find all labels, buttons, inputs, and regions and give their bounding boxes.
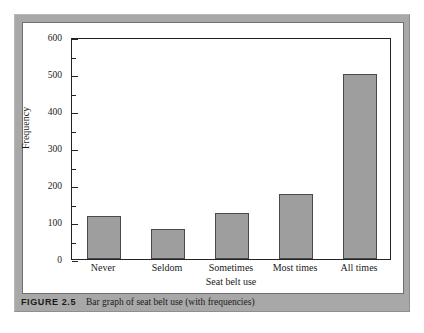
y-axis-major-tick	[72, 113, 78, 114]
x-axis-tick-label: Never	[91, 262, 115, 273]
bar-all-times	[343, 74, 377, 259]
y-axis-tick-label: 400	[48, 107, 62, 117]
y-axis-minor-tick	[72, 58, 76, 59]
bar-seldom	[151, 229, 185, 259]
y-axis-minor-tick	[72, 206, 76, 207]
plot-area	[71, 38, 391, 260]
y-axis-tick-label: 500	[48, 70, 62, 80]
y-axis-tick-label: 300	[48, 144, 62, 154]
y-axis-tick-label: 100	[48, 218, 62, 228]
y-axis-minor-tick	[72, 132, 76, 133]
bar-sometimes	[215, 213, 249, 259]
x-axis-tick-labels: NeverSeldomSometimesMost timesAll times	[71, 262, 391, 276]
y-axis-minor-tick	[72, 95, 76, 96]
figure-caption-label: FIGURE 2.5	[21, 297, 76, 307]
bar-most-times	[279, 194, 313, 259]
y-axis-tick-labels: 0100200300400500600	[23, 38, 67, 260]
y-axis-minor-tick	[72, 243, 76, 244]
bar-never	[87, 216, 121, 259]
y-axis-tick-label: 600	[48, 33, 62, 43]
y-axis-tick-label: 0	[57, 255, 62, 265]
y-axis-major-tick	[72, 76, 78, 77]
y-axis-major-tick	[72, 39, 78, 40]
y-axis-major-tick	[72, 187, 78, 188]
y-axis-minor-tick	[72, 169, 76, 170]
figure-caption-text: Bar graph of seat belt use (with frequen…	[86, 297, 255, 307]
figure-frame: Frequency 0100200300400500600 NeverSeldo…	[14, 14, 410, 312]
y-axis-major-tick	[72, 150, 78, 151]
x-axis-title: Seat belt use	[71, 276, 391, 287]
chart-panel: Frequency 0100200300400500600 NeverSeldo…	[22, 22, 404, 294]
x-axis-tick-label: All times	[341, 262, 378, 273]
x-axis-tick-label: Most times	[273, 262, 318, 273]
y-axis-major-tick	[72, 224, 78, 225]
x-axis-tick-label: Seldom	[152, 262, 183, 273]
y-axis-tick-label: 200	[48, 181, 62, 191]
x-axis-tick-label: Sometimes	[209, 262, 253, 273]
figure-caption: FIGURE 2.5 Bar graph of seat belt use (w…	[15, 292, 411, 311]
